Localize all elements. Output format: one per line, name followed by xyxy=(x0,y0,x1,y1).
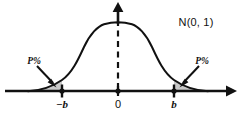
normal-distribution-figure: N(0, 1) P% P% −b 0 b xyxy=(0,0,242,115)
distribution-label: N(0, 1) xyxy=(178,16,213,28)
tick-dot-pos-b xyxy=(171,88,176,93)
axis-label-neg-b: −b xyxy=(56,98,69,110)
tick-dot-zero xyxy=(115,88,120,93)
tick-dot-neg-b xyxy=(59,88,64,93)
x-axis-arrowhead-icon xyxy=(226,86,237,97)
left-tail-percent-label: P% xyxy=(27,56,41,66)
axis-label-pos-b: b xyxy=(171,98,177,110)
vertical-axis-arrowhead-icon xyxy=(113,2,124,12)
axis-label-zero: 0 xyxy=(115,98,121,110)
right-tail-percent-label: P% xyxy=(195,56,209,66)
